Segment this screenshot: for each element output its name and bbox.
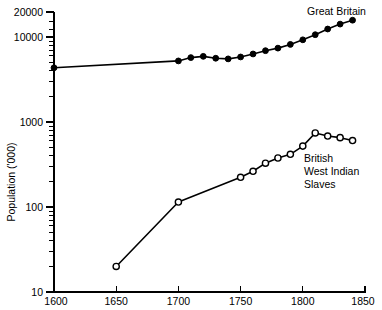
x-tick-label-1750: 1750 (229, 295, 253, 307)
series-line (54, 20, 353, 68)
y-tick-label-1000: 1000 (20, 116, 44, 128)
data-point (238, 54, 244, 60)
annotation-bwi-slaves: British West Indian Slaves (304, 152, 359, 190)
data-point (312, 32, 318, 38)
data-point (287, 151, 293, 157)
data-point (337, 21, 343, 27)
y-axis-major-ticks (46, 12, 54, 292)
x-tick-label-1800: 1800 (291, 295, 315, 307)
data-point (200, 53, 206, 59)
data-point (275, 155, 281, 161)
data-point (300, 143, 306, 149)
annotation-bwi-line-2: West Indian (304, 165, 359, 177)
data-point (176, 58, 182, 64)
x-tick-label-1700: 1700 (167, 295, 191, 307)
x-tick-label-1600: 1600 (44, 295, 68, 307)
data-point (113, 263, 119, 269)
series-bwi-slaves (113, 130, 356, 270)
data-point (263, 48, 269, 54)
data-point (312, 130, 318, 136)
data-point (262, 160, 268, 166)
data-point (325, 133, 331, 139)
data-point (337, 135, 343, 141)
x-axis-ticks (54, 286, 365, 292)
data-point (325, 26, 331, 32)
x-tick-label-1850: 1850 (351, 295, 375, 307)
annotation-bwi-line-1: British (304, 152, 333, 164)
annotation-bwi-line-3: Slaves (304, 178, 336, 190)
data-point (225, 56, 231, 62)
annotation-great-britain: Great Britain (307, 5, 366, 17)
data-point (275, 45, 281, 51)
data-point (250, 168, 256, 174)
data-point (287, 42, 293, 48)
series-great-britain (51, 17, 355, 70)
data-point (349, 137, 355, 143)
y-tick-label-10000: 10000 (14, 31, 43, 43)
data-point (250, 51, 256, 57)
data-point (238, 174, 244, 180)
x-tick-label-1650: 1650 (105, 295, 129, 307)
y-axis-title: Population ('000) (5, 142, 17, 221)
population-log-chart: 20000 10000 1000 100 10 Population ('000… (0, 0, 382, 310)
data-point (213, 55, 219, 61)
data-point (188, 55, 194, 61)
data-point (51, 65, 57, 71)
series-layer (51, 17, 356, 269)
y-tick-label-100: 100 (25, 201, 43, 213)
data-point (175, 199, 181, 205)
data-point (350, 17, 356, 23)
y-tick-label-20000: 20000 (14, 6, 43, 18)
chart-container: 20000 10000 1000 100 10 Population ('000… (0, 0, 382, 310)
y-tick-label-10: 10 (31, 286, 43, 298)
y-axis-minor-ticks (49, 11, 54, 266)
data-point (300, 37, 306, 43)
